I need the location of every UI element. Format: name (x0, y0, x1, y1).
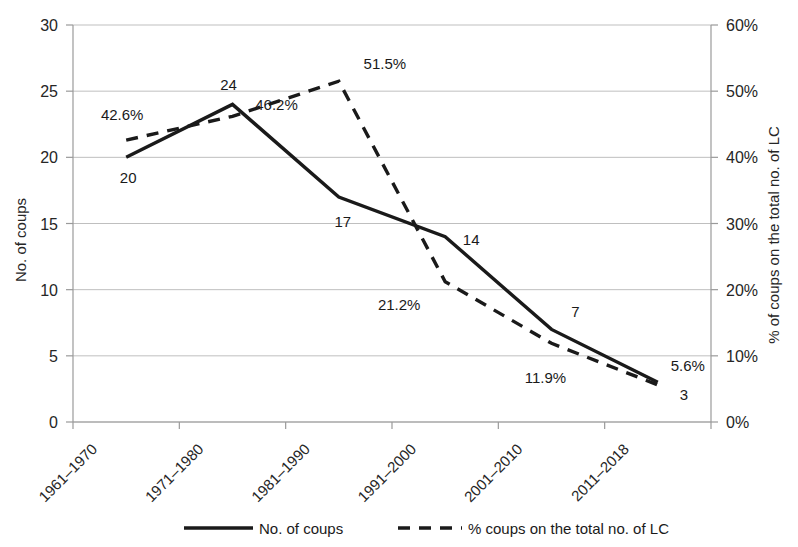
line-chart-svg: 051015202530 0%10%20%30%40%50%60% 1961–1… (0, 0, 798, 547)
chart-container: 051015202530 0%10%20%30%40%50%60% 1961–1… (0, 0, 798, 547)
left-tick-label: 0 (49, 414, 58, 431)
data-label: 42.6% (101, 106, 144, 123)
right-tick-label: 60% (726, 17, 758, 34)
right-tick-label: 30% (726, 216, 758, 233)
left-tick-label: 30 (40, 17, 58, 34)
data-label: 3 (680, 386, 688, 403)
data-label: 11.9% (525, 369, 566, 386)
data-label: 21.2% (378, 296, 421, 313)
right-tick-label: 0% (726, 414, 749, 431)
left-axis-title: No. of coups (12, 198, 29, 282)
data-label: 46.2% (255, 96, 298, 113)
legend-label-percent-coups: % coups on the total no. of LC (468, 520, 669, 537)
right-tick-label: 10% (726, 348, 758, 365)
left-tick-label: 5 (49, 348, 58, 365)
left-tick-label: 20 (40, 149, 58, 166)
data-label: 17 (334, 213, 351, 230)
data-label: 14 (463, 231, 480, 248)
right-tick-label: 20% (726, 282, 758, 299)
data-label: 24 (220, 76, 237, 93)
data-label: 5.6% (671, 357, 705, 374)
legend-label-no-of-coups: No. of coups (259, 520, 343, 537)
left-tick-label: 25 (40, 83, 58, 100)
left-tick-label: 15 (40, 216, 58, 233)
left-tick-label: 10 (40, 282, 58, 299)
data-label: 51.5% (364, 55, 407, 72)
right-tick-label: 40% (726, 149, 758, 166)
data-label: 7 (571, 303, 579, 320)
right-tick-label: 50% (726, 83, 758, 100)
right-axis-title: % of coups on the total no. of LC (765, 126, 782, 344)
data-label: 20 (120, 169, 137, 186)
